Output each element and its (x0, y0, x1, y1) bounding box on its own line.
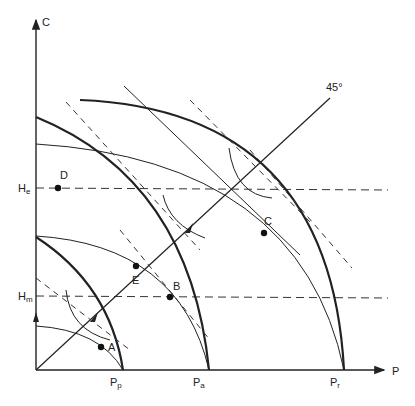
point-b-label: B (173, 280, 180, 292)
tangent-dashed-5 (250, 150, 352, 268)
point-a-label: A (108, 341, 116, 353)
economics-diagram: C P 45° A B C D E He Hm Pp Pa Pr (0, 0, 415, 406)
pa-label: Pa (193, 376, 205, 390)
point-d-label: D (60, 169, 68, 181)
x-axis-label: P (392, 365, 399, 377)
hm-label: Hm (18, 290, 33, 304)
budget-line (124, 86, 300, 255)
y-axis-label: C (42, 16, 50, 28)
point-d (55, 185, 61, 191)
point-e-label: E (132, 274, 139, 286)
point-c-label: C (264, 215, 272, 227)
he-label: He (18, 182, 31, 196)
point-b (167, 294, 173, 300)
angle-label: 45° (326, 81, 343, 93)
point-c (261, 230, 267, 236)
pr-label: Pr (330, 376, 340, 390)
tangent-dashed-1 (36, 278, 130, 350)
point-e (133, 263, 139, 269)
y-axis-arrow-icon (33, 312, 39, 322)
frontier-pa (36, 117, 209, 370)
frontier-pr (80, 100, 344, 370)
point-a (98, 344, 104, 350)
tangent-dashed-2 (66, 102, 200, 250)
tangent-dashed-4 (190, 100, 312, 224)
pp-label: Pp (110, 376, 122, 390)
